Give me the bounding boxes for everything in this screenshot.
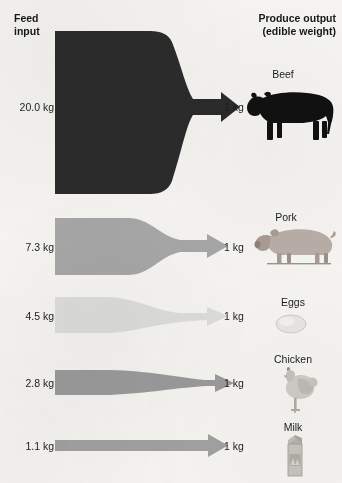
milk-funnel-shape: [0, 0, 342, 483]
milk-carton-icon: [280, 434, 314, 479]
milk-output-label: 1 kg: [224, 440, 244, 452]
feed-conversion-infographic: Feed input Produce output (edible weight…: [0, 0, 342, 483]
milk-feed-label: 1.1 kg: [0, 440, 54, 452]
milk-animal-label: Milk: [268, 421, 318, 433]
